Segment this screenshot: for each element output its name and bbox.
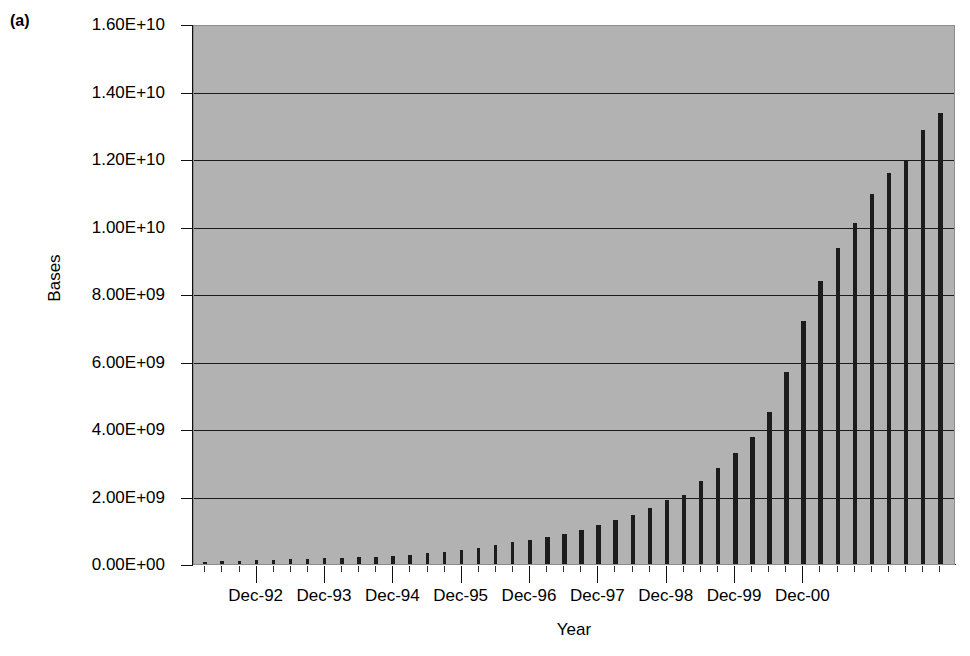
x-minor-tick xyxy=(358,566,359,572)
bar xyxy=(699,481,704,564)
y-tick-label: 1.60E+10 xyxy=(15,16,165,33)
bar xyxy=(443,552,447,564)
x-minor-tick xyxy=(905,566,906,572)
y-tick-mark xyxy=(181,25,193,26)
bar xyxy=(870,194,875,564)
bar xyxy=(784,372,789,564)
x-minor-tick xyxy=(221,566,222,572)
bar xyxy=(426,553,430,564)
gridline xyxy=(194,93,954,94)
bar xyxy=(562,534,567,564)
bar xyxy=(494,545,498,564)
x-minor-tick xyxy=(204,566,205,572)
y-tick-mark xyxy=(181,565,193,566)
bar xyxy=(904,161,909,564)
x-tick-mark xyxy=(392,566,393,583)
bar xyxy=(836,248,841,564)
x-tick-mark xyxy=(734,566,735,583)
bar xyxy=(887,173,892,565)
x-minor-tick xyxy=(683,566,684,572)
bar xyxy=(579,530,584,564)
y-tick-mark xyxy=(181,228,193,229)
bar xyxy=(682,495,687,564)
x-minor-tick xyxy=(546,566,547,572)
bar xyxy=(596,525,601,564)
y-tick-mark xyxy=(181,498,193,499)
bar xyxy=(750,437,755,564)
x-tick-mark xyxy=(256,566,257,583)
gridline xyxy=(194,160,954,161)
x-minor-tick xyxy=(512,566,513,572)
bar xyxy=(220,561,224,564)
bar xyxy=(648,508,653,564)
bar xyxy=(306,559,310,564)
x-tick-mark xyxy=(597,566,598,583)
y-tick-mark xyxy=(181,295,193,296)
bar xyxy=(716,468,721,564)
figure-panel: (a) Bases 0.00E+002.00E+094.00E+096.00E+… xyxy=(0,0,970,656)
bar xyxy=(323,558,327,564)
bar xyxy=(801,321,806,564)
x-minor-tick xyxy=(717,566,718,572)
bar xyxy=(238,561,242,564)
bar xyxy=(255,560,259,564)
bar xyxy=(545,537,550,564)
x-minor-tick xyxy=(854,566,855,572)
x-minor-tick xyxy=(409,566,410,572)
y-tick-mark xyxy=(181,363,193,364)
x-axis-title: Year xyxy=(193,620,955,640)
x-minor-tick xyxy=(751,566,752,572)
x-minor-tick xyxy=(307,566,308,572)
x-minor-tick xyxy=(888,566,889,572)
y-tick-label: 8.00E+09 xyxy=(15,286,165,303)
bar xyxy=(853,223,858,564)
x-minor-tick xyxy=(478,566,479,572)
x-minor-tick xyxy=(427,566,428,572)
x-minor-tick xyxy=(785,566,786,572)
x-tick-mark xyxy=(802,566,803,583)
y-tick-mark xyxy=(181,430,193,431)
bar xyxy=(477,548,481,564)
bar xyxy=(767,412,772,564)
bar xyxy=(391,556,395,564)
bar xyxy=(818,281,823,565)
bar xyxy=(203,562,207,564)
bar xyxy=(511,542,515,564)
bar xyxy=(613,520,618,564)
x-minor-tick xyxy=(819,566,820,572)
bar xyxy=(408,555,412,564)
bar xyxy=(938,113,943,564)
bar xyxy=(733,453,738,564)
x-minor-tick xyxy=(632,566,633,572)
bar xyxy=(340,558,344,564)
bar xyxy=(357,557,361,564)
bar xyxy=(921,130,926,564)
x-minor-tick xyxy=(290,566,291,572)
x-minor-tick xyxy=(495,566,496,572)
y-tick-label: 4.00E+09 xyxy=(15,421,165,438)
y-tick-label: 1.00E+10 xyxy=(15,219,165,236)
x-tick-mark xyxy=(324,566,325,583)
y-tick-label: 2.00E+09 xyxy=(15,489,165,506)
bar xyxy=(460,550,464,564)
x-minor-tick xyxy=(563,566,564,572)
x-minor-tick xyxy=(444,566,445,572)
x-minor-tick xyxy=(700,566,701,572)
plot-area xyxy=(193,25,955,565)
x-minor-tick xyxy=(922,566,923,572)
x-minor-tick xyxy=(837,566,838,572)
bar xyxy=(631,515,636,564)
bar xyxy=(289,559,293,564)
x-minor-tick xyxy=(649,566,650,572)
x-minor-tick xyxy=(239,566,240,572)
x-minor-tick xyxy=(273,566,274,572)
gridline xyxy=(194,228,954,229)
gridline xyxy=(194,25,954,26)
bar xyxy=(374,557,378,564)
y-tick-label: 6.00E+09 xyxy=(15,354,165,371)
bar xyxy=(665,500,670,564)
x-minor-tick xyxy=(768,566,769,572)
x-tick-label: Dec-00 xyxy=(742,586,862,606)
x-tick-mark xyxy=(666,566,667,583)
bar xyxy=(528,540,532,564)
